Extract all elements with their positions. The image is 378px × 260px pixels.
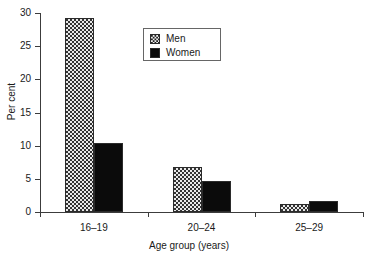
y-tick-10 — [35, 146, 40, 147]
y-tick-25 — [35, 46, 40, 47]
x-tick-label-1: 20–24 — [148, 222, 256, 233]
y-tick-label-15: 15 — [5, 108, 31, 118]
y-tick-label-0: 0 — [5, 207, 31, 217]
y-tick-label-5: 5 — [5, 174, 31, 184]
y-tick-label-30: 30 — [5, 8, 31, 18]
x-tick-1 — [148, 212, 149, 217]
legend-label-women: Women — [166, 47, 200, 58]
x-tick-label-2: 25–29 — [255, 222, 363, 233]
legend-item-women: Women — [150, 46, 200, 59]
bar-women-20–24 — [202, 181, 231, 212]
legend-label-men: Men — [166, 33, 185, 44]
y-tick-5 — [35, 179, 40, 180]
legend: Men Women — [143, 28, 221, 61]
bar-chart: Per cent 051015202530 16–1920–2425–29 Ag… — [0, 0, 378, 260]
x-tick-0 — [40, 212, 41, 217]
legend-swatch-men-icon — [150, 34, 160, 44]
x-tick-label-0: 16–19 — [40, 222, 148, 233]
x-tick-2 — [255, 212, 256, 217]
y-tick-label-10: 10 — [5, 141, 31, 151]
x-axis-title: Age group (years) — [0, 240, 378, 251]
x-axis-line — [40, 212, 363, 213]
y-tick-15 — [35, 113, 40, 114]
bar-men-20–24 — [173, 167, 202, 212]
y-axis-line — [40, 13, 41, 213]
y-tick-20 — [35, 79, 40, 80]
bar-men-25–29 — [280, 204, 309, 212]
x-tick-3 — [363, 212, 364, 217]
y-tick-30 — [35, 13, 40, 14]
legend-swatch-women-icon — [150, 48, 160, 58]
bar-women-25–29 — [309, 201, 338, 212]
legend-item-men: Men — [150, 32, 185, 45]
bar-men-16–19 — [65, 18, 94, 212]
bar-women-16–19 — [94, 143, 123, 212]
y-tick-label-25: 25 — [5, 41, 31, 51]
y-tick-label-20: 20 — [5, 74, 31, 84]
